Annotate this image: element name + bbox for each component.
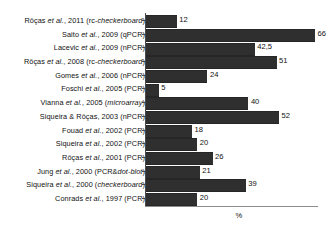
bar-value-label: 39	[246, 178, 257, 189]
bar-row: Rôças et al., 2011 (rc-checkerboard)12	[0, 14, 334, 28]
bar-fill	[146, 56, 277, 69]
bar-value-label: 24	[207, 69, 218, 80]
bar-fill	[146, 111, 279, 124]
category-label: Vianna et al., 2005 (microarray)	[41, 96, 145, 110]
category-label: Foschi et al., 2005 (PCR)	[61, 82, 145, 96]
bar-row: Gomes et al., 2006 (nPCR)24	[0, 69, 334, 83]
bar-fill	[146, 15, 177, 28]
bar-value-label: 20	[197, 192, 208, 203]
y-axis-tick	[142, 184, 145, 185]
bar	[146, 138, 197, 149]
y-axis-tick	[142, 88, 145, 89]
bar-value-label: 40	[248, 96, 259, 107]
bar-fill	[146, 84, 159, 97]
bar	[146, 166, 200, 177]
bar	[146, 97, 248, 108]
bar	[146, 56, 277, 67]
bar-value-label: 5	[159, 82, 166, 93]
category-label: Jung et al., 2000 (PCR&dot-blot)	[37, 165, 145, 179]
category-label: Gomes et al., 2006 (nPCR)	[55, 69, 145, 83]
category-label: Rôças et al., 2001 (PCR)	[62, 151, 145, 165]
y-axis-tick	[142, 102, 145, 103]
y-axis-tick	[142, 61, 145, 62]
bar-row: Conrads et al., 1997 (PCR)20	[0, 192, 334, 206]
bar-row: Siqueira et al., 2000 (checkerboard)39	[0, 178, 334, 192]
bar-value-label: 20	[197, 137, 208, 148]
bar	[146, 29, 315, 40]
category-label: Fouad et al., 2002 (PCR)	[62, 124, 145, 138]
bar-value-label: 52	[279, 110, 290, 121]
bar-fill	[146, 97, 248, 110]
bar-fill	[146, 166, 200, 179]
y-axis-tick	[142, 157, 145, 158]
y-axis-tick	[142, 47, 145, 48]
bar-fill	[146, 179, 246, 192]
category-label: Rôças et al., 2008 (rc-checkerboard)	[24, 55, 145, 69]
bar-rows: Rôças et al., 2011 (rc-checkerboard)12Sa…	[0, 14, 334, 206]
category-label: Lacevic et al., 2009 (nPCR)	[54, 41, 145, 55]
bar-fill	[146, 43, 255, 56]
bar-row: Rôças et al., 2001 (PCR)26	[0, 151, 334, 165]
category-label: Saito et al., 2009 (qPCR)	[62, 28, 145, 42]
bar-chart: Rôças et al., 2011 (rc-checkerboard)12Sa…	[0, 0, 334, 227]
category-label: Siqueira & Rôças, 2003 (nPCR)	[40, 110, 145, 124]
bar-value-label: 21	[200, 165, 211, 176]
bar	[146, 125, 192, 136]
bar	[146, 70, 207, 81]
bar-row: Fouad et al., 2002 (PCR)18	[0, 124, 334, 138]
bar	[146, 179, 246, 190]
bar	[146, 15, 177, 26]
bar	[146, 152, 213, 163]
y-axis-tick	[142, 143, 145, 144]
bar-fill	[146, 125, 192, 138]
bar-row: Saito et al., 2009 (qPCR)66	[0, 28, 334, 42]
bar-value-label: 51	[277, 55, 288, 66]
y-axis-tick	[142, 34, 145, 35]
category-label: Siqueira et al., 2002 (PCR)	[56, 137, 145, 151]
y-axis-tick	[142, 116, 145, 117]
y-axis-tick	[142, 20, 145, 21]
y-axis-tick	[142, 198, 145, 199]
bar-fill	[146, 152, 213, 165]
y-axis-tick	[142, 171, 145, 172]
bar-row: Siqueira et al., 2002 (PCR)20	[0, 137, 334, 151]
bar-value-label: 66	[315, 28, 326, 39]
bar-fill	[146, 193, 197, 206]
bar	[146, 84, 159, 95]
x-axis-line	[145, 206, 318, 207]
bar-fill	[146, 29, 315, 42]
y-axis-tick	[142, 75, 145, 76]
bar-row: Vianna et al., 2005 (microarray)40	[0, 96, 334, 110]
x-axis-title: %	[0, 211, 334, 220]
bar-fill	[146, 138, 197, 151]
bar-row: Jung et al., 2000 (PCR&dot-blot)21	[0, 165, 334, 179]
category-label: Conrads et al., 1997 (PCR)	[55, 192, 145, 206]
category-label: Siqueira et al., 2000 (checkerboard)	[26, 178, 145, 192]
bar-row: Siqueira & Rôças, 2003 (nPCR)52	[0, 110, 334, 124]
bar	[146, 111, 279, 122]
bar	[146, 193, 197, 204]
bar-fill	[146, 70, 207, 83]
y-axis-tick	[142, 130, 145, 131]
bar	[146, 43, 255, 54]
bar-row: Lacevic et al., 2009 (nPCR)42,5	[0, 41, 334, 55]
bar-value-label: 26	[213, 151, 224, 162]
bar-value-label: 42,5	[255, 41, 272, 52]
bar-value-label: 18	[192, 124, 203, 135]
x-axis-title-label: %	[236, 211, 243, 220]
bar-value-label: 12	[177, 14, 188, 25]
category-label: Rôças et al., 2011 (rc-checkerboard)	[24, 14, 145, 28]
bar-row: Foschi et al., 2005 (PCR)5	[0, 82, 334, 96]
bar-row: Rôças et al., 2008 (rc-checkerboard)51	[0, 55, 334, 69]
